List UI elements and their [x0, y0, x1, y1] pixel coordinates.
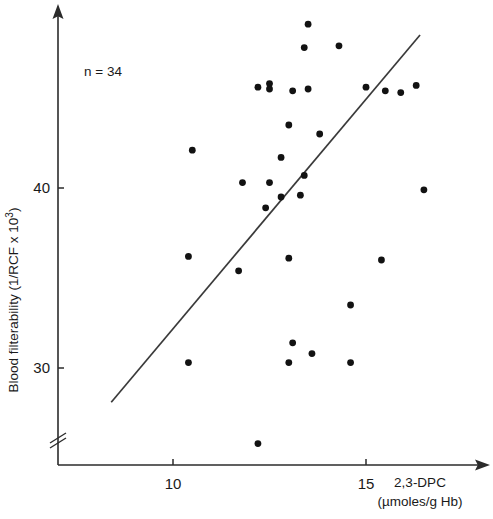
x-tick-label-10: 10 [165, 475, 182, 492]
data-point [347, 359, 354, 366]
data-point [278, 194, 285, 201]
chart-canvas: 40 30 10 15 2,3-DPC (µmoles/g Hb) Blood … [0, 0, 493, 519]
data-point [421, 186, 428, 193]
data-point [255, 440, 262, 447]
y-tick-label-30: 30 [33, 359, 50, 376]
x-axis-units: (µmoles/g Hb) [377, 494, 462, 509]
y-axis-title-prefix: Blood filterability (1/RCF x 10 [6, 218, 21, 393]
data-point [363, 84, 370, 91]
data-point [262, 204, 269, 211]
x-tick-label-15: 15 [358, 475, 375, 492]
data-point [305, 21, 312, 28]
data-point [289, 339, 296, 346]
data-point [309, 350, 316, 357]
data-point [397, 89, 404, 96]
y-tick-label-40: 40 [33, 179, 50, 196]
data-point [266, 179, 273, 186]
data-point [289, 87, 296, 94]
data-point [266, 80, 273, 87]
data-point [316, 131, 323, 138]
y-axis-title-suffix: ) [6, 208, 21, 213]
data-point [301, 44, 308, 51]
data-point [413, 82, 420, 89]
data-point [185, 253, 192, 260]
data-point [189, 147, 196, 154]
scatter-plot-figure: 40 30 10 15 2,3-DPC (µmoles/g Hb) Blood … [0, 0, 493, 519]
data-point [378, 257, 385, 264]
data-points-layer [185, 21, 427, 447]
sample-size-annotation: n = 34 [84, 64, 122, 79]
data-point [278, 154, 285, 161]
data-point [185, 359, 192, 366]
data-point [255, 84, 262, 91]
data-point [235, 267, 242, 274]
data-point [239, 179, 246, 186]
data-point [336, 42, 343, 49]
data-point [301, 172, 308, 179]
y-axis-title-group: Blood filterability (1/RCF x 103) [4, 208, 21, 393]
x-axis-title: 2,3-DPC [394, 475, 446, 490]
data-point [347, 302, 354, 309]
data-point [382, 87, 389, 94]
data-point [285, 255, 292, 262]
svg-text:Blood filterability (1/RCF x 1: Blood filterability (1/RCF x 103) [4, 208, 21, 393]
data-point [285, 122, 292, 129]
data-point [297, 192, 304, 199]
y-axis-group: 40 30 [33, 4, 66, 465]
regression-line [111, 35, 420, 402]
data-point [305, 86, 312, 93]
data-point [285, 359, 292, 366]
